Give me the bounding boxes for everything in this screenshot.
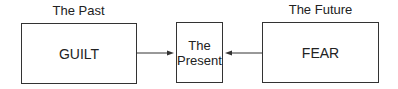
arrows	[0, 0, 398, 89]
arrow-left-icon	[225, 51, 262, 56]
arrow-right-icon	[137, 51, 174, 56]
